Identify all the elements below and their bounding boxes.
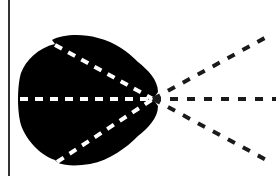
outer-dashed-line-upper (153, 34, 272, 99)
diagram-canvas (0, 0, 276, 176)
outer-dashed-lines (153, 34, 276, 163)
outer-dashed-line-lower (153, 99, 272, 163)
